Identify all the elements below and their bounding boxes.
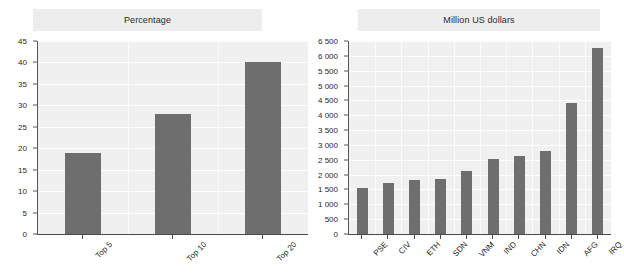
y-axis-tick-label: 10	[18, 187, 27, 196]
y-axis-tick-label: 15	[18, 165, 27, 174]
chart-panel-million-us-dollars: Million US dollars 05001 0001 5002 0002 …	[310, 0, 618, 277]
x-axis-tick-label: SDN	[451, 240, 469, 258]
x-axis-tick-mark	[545, 235, 546, 239]
chart-panel-percentage: Percentage 051015202530354045 Top 5Top 1…	[0, 0, 310, 277]
bar-series-right	[349, 41, 611, 234]
bar	[461, 171, 472, 234]
y-axis-tick-label: 1 500	[318, 185, 338, 194]
y-axis-tick-label: 5	[23, 208, 27, 217]
x-axis-tick-mark	[518, 235, 519, 239]
plot-area-right	[348, 41, 611, 235]
x-axis-tick-label: Top 10	[185, 240, 208, 263]
x-axis-tick-mark	[387, 235, 388, 239]
bar	[488, 159, 499, 234]
y-axis-right: 05001 0001 5002 0002 5003 0003 5004 0004…	[310, 41, 344, 234]
x-axis-tick-mark	[440, 235, 441, 239]
y-axis-tick-label: 20	[18, 144, 27, 153]
bar	[566, 103, 577, 234]
x-axis-tick-mark	[82, 235, 83, 239]
y-axis-tick-label: 2 500	[318, 155, 338, 164]
y-axis-tick-label: 6 000	[318, 51, 338, 60]
y-axis-tick-label: 4 000	[318, 111, 338, 120]
plot-area-left	[37, 41, 308, 235]
x-axis-tick-label: IRQ	[607, 240, 623, 256]
chart-title-left: Percentage	[124, 15, 171, 25]
bar	[540, 151, 551, 234]
y-axis-tick-label: 40	[18, 58, 27, 67]
x-axis-tick-mark	[262, 235, 263, 239]
y-axis-tick-label: 25	[18, 122, 27, 131]
y-axis-tick-label: 5 000	[318, 81, 338, 90]
x-axis-tick-mark	[597, 235, 598, 239]
y-axis-tick-label: 6 500	[318, 37, 338, 46]
x-axis-tick-label: IDN	[555, 240, 571, 256]
bar	[435, 179, 446, 234]
x-axis-tick-label: PSE	[372, 240, 390, 258]
x-axis-tick-mark	[172, 235, 173, 239]
bar	[383, 183, 394, 234]
y-axis-tick-label: 45	[18, 37, 27, 46]
bar	[409, 180, 420, 234]
y-axis-tick-label: 0	[23, 230, 27, 239]
y-axis-tick-label: 3 000	[318, 140, 338, 149]
x-axis-tick-label: IND	[502, 240, 518, 256]
y-axis-tick-label: 500	[325, 215, 338, 224]
x-axis-tick-label: Top 20	[275, 240, 298, 263]
x-axis-tick-label: CIV	[397, 240, 413, 256]
y-axis-tick-label: 4 500	[318, 96, 338, 105]
x-axis-tick-label: VNM	[477, 240, 496, 259]
chart-title-right: Million US dollars	[443, 15, 514, 25]
y-axis-tick-label: 30	[18, 101, 27, 110]
bar	[65, 153, 101, 234]
bar	[357, 188, 368, 234]
x-axis-tick-label: Top 5	[94, 240, 114, 260]
y-axis-tick-label: 1 000	[318, 200, 338, 209]
x-axis-left: Top 5Top 10Top 20	[37, 235, 307, 277]
x-axis-tick-mark	[361, 235, 362, 239]
bar	[592, 48, 603, 234]
bar	[514, 156, 525, 234]
y-axis-tick-label: 3 500	[318, 126, 338, 135]
x-axis-tick-mark	[492, 235, 493, 239]
x-axis-tick-label: CHN	[529, 240, 548, 259]
y-axis-tick-label: 35	[18, 79, 27, 88]
x-axis-tick-label: ETH	[424, 240, 442, 258]
chart-title-band-left: Percentage	[33, 9, 262, 31]
x-axis-right: PSECIVETHSDNVNMINDCHNIDNAFGIRQ	[348, 235, 610, 277]
bar	[155, 114, 191, 234]
y-axis-tick-label: 0	[334, 230, 338, 239]
chart-title-band-right: Million US dollars	[358, 9, 600, 31]
bar	[245, 62, 281, 234]
x-axis-tick-mark	[571, 235, 572, 239]
y-axis-tick-label: 2 000	[318, 170, 338, 179]
y-axis-tick-label: 5 500	[318, 66, 338, 75]
bar-series-left	[38, 41, 308, 234]
x-axis-tick-label: AFG	[582, 240, 600, 258]
y-axis-left: 051015202530354045	[0, 41, 33, 234]
x-axis-tick-mark	[466, 235, 467, 239]
x-axis-tick-mark	[414, 235, 415, 239]
